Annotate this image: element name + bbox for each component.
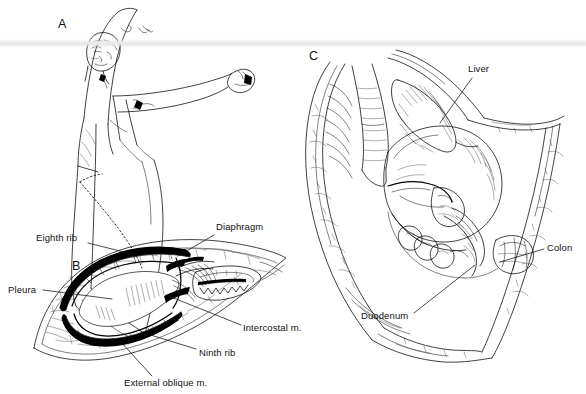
annotation-external-oblique-m: External oblique m. bbox=[124, 378, 207, 388]
panel-a-letter: A bbox=[58, 17, 67, 31]
leader-duodenum bbox=[414, 265, 475, 313]
annotation-pleura: Pleura bbox=[8, 285, 36, 295]
leader-ninth-rib bbox=[141, 332, 196, 349]
annotation-ninth-rib: Ninth rib bbox=[199, 348, 235, 358]
panel-b-letter: B bbox=[72, 259, 80, 273]
annotation-diaphragm: Diaphragm bbox=[216, 222, 263, 232]
leader-liver bbox=[440, 78, 472, 123]
figure-artwork: A bbox=[0, 0, 586, 394]
annotation-duodenum: Duodenum bbox=[361, 311, 408, 321]
figure-root: A bbox=[0, 0, 586, 394]
panel-c-letter: C bbox=[309, 49, 318, 63]
annotation-eighth-rib: Eighth rib bbox=[36, 233, 77, 243]
leader-colon bbox=[500, 249, 544, 262]
leader-diaphragm bbox=[178, 235, 214, 256]
panel-c-artwork: C bbox=[306, 49, 564, 362]
annotation-colon: Colon bbox=[547, 243, 572, 253]
annotation-intercostal-m: Intercostal m. bbox=[243, 323, 301, 333]
leader-external-oblique-m bbox=[119, 340, 152, 376]
annotation-liver: Liver bbox=[468, 64, 489, 74]
